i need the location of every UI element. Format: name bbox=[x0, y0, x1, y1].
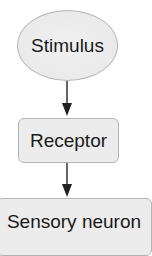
sensory-neuron-label: Sensory neuron bbox=[7, 211, 141, 233]
stimulus-node: Stimulus bbox=[17, 10, 118, 81]
arrow-stimulus-to-receptor bbox=[62, 81, 72, 116]
arrow-receptor-to-sensory-neuron bbox=[62, 163, 72, 197]
receptor-label: Receptor bbox=[30, 130, 107, 152]
arrowhead-icon bbox=[62, 184, 72, 197]
receptor-node: Receptor bbox=[18, 118, 119, 163]
sensory-neuron-node: Sensory neuron bbox=[0, 198, 152, 256]
stimulus-label: Stimulus bbox=[31, 35, 104, 57]
arrowhead-icon bbox=[62, 103, 72, 116]
